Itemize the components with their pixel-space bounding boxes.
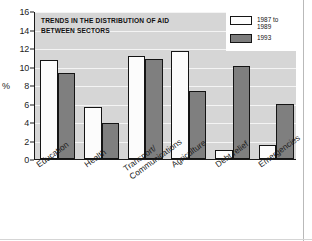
chart-figure: 0246810121416 % TRENDS IN THE DISTRIBUTI… (0, 0, 312, 241)
chart-title-line-2: BETWEEN SECTORS (41, 26, 201, 36)
legend-swatch-1993 (230, 34, 252, 43)
y-tick-label-4: 4 (24, 118, 29, 128)
y-tick-label-2: 2 (24, 137, 29, 147)
legend-label-1993: 1993 (257, 34, 271, 41)
bar-education-series-1 (40, 60, 58, 159)
legend-item-1987-1989: 1987 to 1989 (230, 16, 278, 30)
y-tick-label-6: 6 (24, 100, 29, 110)
chart-legend: 1987 to 1989 1993 (226, 12, 296, 51)
bar-transport-communications-series-1 (128, 56, 146, 159)
chart-title-line-1: TRENDS IN THE DISTRIBUTION OF AID (41, 16, 201, 26)
y-tick-label-14: 14 (19, 26, 29, 36)
x-axis-labels: EducationHealthTransport/CommunicationsA… (0, 160, 312, 241)
y-tick-label-16: 16 (19, 7, 29, 17)
legend-label-1987-1989-line-1: 1987 to (257, 16, 278, 23)
y-axis-label: % (2, 81, 10, 91)
gridline-10 (35, 68, 296, 69)
y-tick-label-8: 8 (24, 81, 29, 91)
chart-title: TRENDS IN THE DISTRIBUTION OF AID BETWEE… (41, 16, 201, 36)
y-tick-label-10: 10 (19, 63, 29, 73)
legend-item-1993: 1993 (230, 34, 271, 43)
legend-label-1987-1989: 1987 to 1989 (257, 16, 278, 30)
legend-swatch-1987-1989 (230, 16, 252, 25)
legend-label-1987-1989-line-2: 1989 (257, 23, 271, 30)
y-tick-label-12: 12 (19, 44, 29, 54)
